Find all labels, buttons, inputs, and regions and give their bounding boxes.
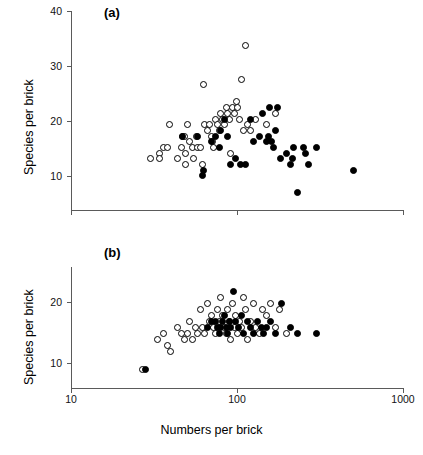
data-point-open [160,330,167,337]
data-point-filled [272,127,279,134]
data-point-filled [194,133,201,140]
panel-a-ytick-20 [67,121,71,122]
data-point-open [174,155,181,162]
panel-a-ytick-40 [67,11,71,12]
panel-b-ylabel-10: 10 [36,358,62,368]
panel-b-axis-title-y: Species per brick [22,289,36,385]
data-point-filled [256,133,263,140]
data-point-open [164,144,171,151]
data-point-filled [200,167,207,174]
data-point-open [182,161,189,168]
data-point-open [267,300,274,307]
panel-b-label: (b) [104,245,121,260]
data-point-filled [221,116,228,123]
panel-b-ylabel-20: 20 [36,297,62,307]
data-point-filled [230,288,237,295]
data-point-open [276,306,283,313]
data-point-open [156,155,163,162]
data-point-open [166,121,173,128]
data-point-filled [277,155,284,162]
data-point-open [242,42,249,49]
panel-a-xtick-100 [237,210,238,215]
panel-a-ytick-10 [67,176,71,177]
data-point-open [227,336,234,343]
data-point-filled [242,161,249,168]
data-point-filled [287,324,294,331]
data-point-open [240,294,247,301]
data-point-open [263,121,270,128]
panel-a-ylabel-40: 40 [36,6,62,16]
data-point-filled [313,330,320,337]
data-point-open [217,294,224,301]
data-point-open [200,81,207,88]
data-point-filled [289,155,296,162]
data-point-open [201,330,208,337]
data-point-open [197,306,204,313]
data-point-filled [212,133,219,140]
xaxis-title: Numbers per brick [0,423,423,437]
panel-b-y-axis-line [71,267,72,388]
data-point-filled [247,116,254,123]
data-point-open [250,300,257,307]
data-point-open [147,155,154,162]
data-point-filled [263,324,270,331]
panel-a-ylabel-10: 10 [36,171,62,181]
data-point-filled [305,161,312,168]
data-point-open [194,330,201,337]
data-point-filled [259,110,266,117]
data-point-filled [227,161,234,168]
data-point-filled [302,150,309,157]
data-point-filled [350,167,357,174]
data-point-filled [216,330,223,337]
data-point-filled [294,330,301,337]
data-point-open [229,300,236,307]
data-point-filled [179,133,186,140]
data-point-filled [278,300,285,307]
data-point-filled [274,104,281,111]
data-point-open [189,336,196,343]
data-point-filled [217,127,224,134]
panel-a-ylabel-20: 20 [36,116,62,126]
data-point-filled [238,312,245,319]
panel-a-label: (a) [104,5,120,20]
data-point-open [247,127,254,134]
data-point-open [283,330,290,337]
panel-a-y-axis-line [71,11,72,210]
panel-a-xtick-10 [71,210,72,215]
data-point-filled [270,144,277,151]
data-point-open [244,336,251,343]
data-point-filled [287,161,294,168]
data-point-filled [250,138,257,145]
xaxis-tick-label-100: 100 [217,394,257,405]
panel-b-ytick-10 [67,363,71,364]
panel-a-xtick-1000 [403,210,404,215]
data-point-filled [224,133,231,140]
data-point-open [181,336,188,343]
data-point-open [154,336,161,343]
xaxis-tick-label-1000: 1000 [383,394,423,405]
data-point-open [182,150,189,157]
data-point-filled [290,144,297,151]
data-point-open [167,348,174,355]
panel-a-ytick-30 [67,66,71,67]
figure-scatter-species-per-brick: 40 30 20 10 Species per brick (a) 20 10 … [0,0,423,455]
data-point-open [197,144,204,151]
data-point-open [190,155,197,162]
data-point-filled [272,330,279,337]
data-point-open [206,121,213,128]
data-point-open [184,121,191,128]
data-point-filled [260,330,267,337]
data-point-filled [313,144,320,151]
panel-a-ylabel-30: 30 [36,61,62,71]
data-point-open [234,104,241,111]
panel-b-ytick-20 [67,302,71,303]
data-point-filled [142,366,149,373]
data-point-filled [216,144,223,151]
data-point-open [204,300,211,307]
data-point-open [238,76,245,83]
xaxis-tick-label-10: 10 [51,394,91,405]
data-point-filled [204,324,211,331]
panel-a-axis-title-y: Species per brick [22,79,36,175]
data-point-filled [294,189,301,196]
data-point-open [236,116,243,123]
